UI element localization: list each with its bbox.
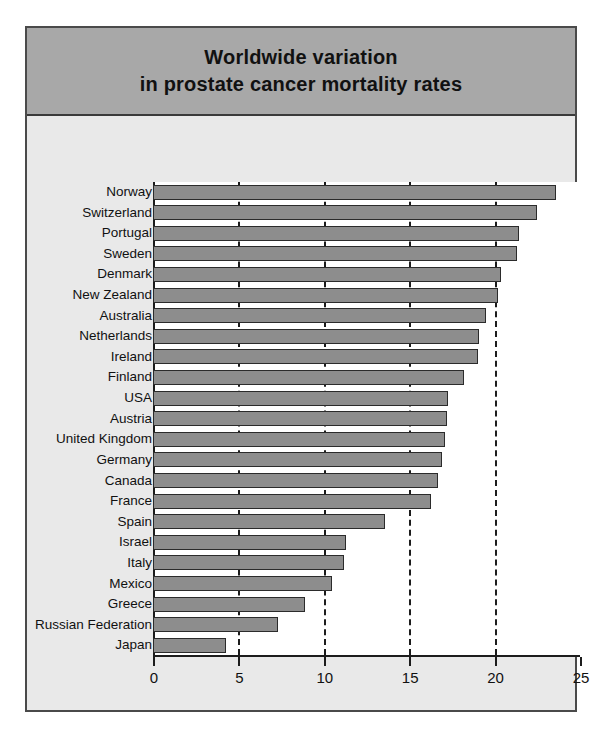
category-label: Australia: [0, 308, 152, 324]
category-label: Finland: [0, 369, 152, 385]
bar: [153, 205, 537, 220]
category-label: Mexico: [0, 576, 152, 592]
category-label: Portugal: [0, 225, 152, 241]
bar-row: Denmark: [27, 264, 580, 285]
x-tick-20: [495, 657, 497, 666]
category-label: Norway: [0, 184, 152, 200]
bar: [153, 267, 501, 282]
category-label: United Kingdom: [0, 431, 152, 447]
category-label: Ireland: [0, 349, 152, 365]
bar: [153, 473, 438, 488]
bar-row: Ireland: [27, 347, 580, 368]
bar-row: United Kingdom: [27, 429, 580, 450]
category-label: Austria: [0, 411, 152, 427]
bar-row: Norway: [27, 182, 580, 203]
bar: [153, 391, 448, 406]
x-tick-label-10: 10: [316, 669, 333, 686]
x-tick-15: [409, 657, 411, 666]
bar-row: Italy: [27, 553, 580, 574]
bar-row: Greece: [27, 594, 580, 615]
bar: [153, 535, 346, 550]
bar: [153, 288, 498, 303]
bar: [153, 452, 442, 467]
category-label: Switzerland: [0, 205, 152, 221]
bar-row: Finland: [27, 367, 580, 388]
bar-row: New Zealand: [27, 285, 580, 306]
bar: [153, 555, 344, 570]
bar-row: Sweden: [27, 244, 580, 265]
bar: [153, 494, 431, 509]
bar: [153, 349, 478, 364]
x-tick-label-0: 0: [150, 669, 158, 686]
bar-row: USA: [27, 388, 580, 409]
category-label: USA: [0, 390, 152, 406]
category-label: New Zealand: [0, 287, 152, 303]
category-label: France: [0, 493, 152, 509]
x-tick-label-25: 25: [573, 669, 590, 686]
bar-row: Canada: [27, 471, 580, 492]
bar-rows: NorwaySwitzerlandPortugalSwedenDenmarkNe…: [27, 182, 580, 656]
chart-title-band: Worldwide variation in prostate cancer m…: [27, 28, 575, 116]
bar-row: Netherlands: [27, 326, 580, 347]
bar-row: Japan: [27, 635, 580, 656]
bar: [153, 617, 278, 632]
bar-row: Spain: [27, 512, 580, 533]
x-tick-25: [580, 657, 582, 666]
bar-row: Russian Federation: [27, 615, 580, 636]
bar-row: Israel: [27, 532, 580, 553]
bar-row: Austria: [27, 409, 580, 430]
bar-row: Australia: [27, 306, 580, 327]
category-label: Germany: [0, 452, 152, 468]
category-label: Russian Federation: [0, 617, 152, 633]
x-tick-5: [238, 657, 240, 666]
category-label: Netherlands: [0, 328, 152, 344]
bar: [153, 370, 464, 385]
category-label: Sweden: [0, 246, 152, 262]
category-label: Spain: [0, 514, 152, 530]
bar: [153, 514, 385, 529]
x-tick-label-15: 15: [402, 669, 419, 686]
plot-area: NorwaySwitzerlandPortugalSwedenDenmarkNe…: [27, 116, 575, 712]
category-label: Canada: [0, 473, 152, 489]
x-tick-label-5: 5: [235, 669, 243, 686]
chart-title-line-2: in prostate cancer mortality rates: [140, 71, 462, 98]
category-label: Greece: [0, 596, 152, 612]
category-label: Israel: [0, 534, 152, 550]
bar: [153, 308, 486, 323]
chart-figure: Worldwide variation in prostate cancer m…: [25, 26, 577, 712]
x-tick-0: [153, 657, 155, 666]
bar-row: France: [27, 491, 580, 512]
bar-row: Switzerland: [27, 203, 580, 224]
bar: [153, 226, 519, 241]
category-label: Japan: [0, 637, 152, 653]
bar: [153, 329, 479, 344]
bar: [153, 411, 447, 426]
x-tick-label-20: 20: [487, 669, 504, 686]
bar-row: Portugal: [27, 223, 580, 244]
bar: [153, 597, 305, 612]
x-tick-10: [324, 657, 326, 666]
category-label: Denmark: [0, 266, 152, 282]
bar: [153, 638, 226, 653]
bar: [153, 246, 517, 261]
category-label: Italy: [0, 555, 152, 571]
chart-title-line-1: Worldwide variation: [204, 44, 397, 71]
bar: [153, 576, 332, 591]
bar-row: Mexico: [27, 574, 580, 595]
bar-row: Germany: [27, 450, 580, 471]
bar: [153, 185, 556, 200]
bar: [153, 432, 445, 447]
